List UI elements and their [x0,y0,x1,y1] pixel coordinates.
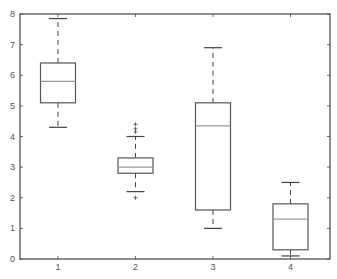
box-2 [118,122,153,200]
y-tick-label: 2 [10,193,15,203]
y-tick-label: 3 [10,162,15,172]
y-tick-label: 7 [10,40,15,50]
x-axis-ticks: 1234 [55,14,293,272]
y-tick-label: 0 [10,254,15,264]
x-tick-label: 4 [288,262,293,272]
box-1 [41,19,76,128]
box-4 [273,182,308,256]
y-tick-label: 8 [10,9,15,19]
y-tick-label: 4 [10,132,15,142]
box-body [118,158,153,173]
outlier-marker [134,127,138,131]
y-tick-label: 5 [10,101,15,111]
box-body [273,204,308,250]
y-tick-label: 1 [10,223,15,233]
boxes [41,19,309,256]
box-3 [196,48,231,229]
y-tick-label: 6 [10,70,15,80]
x-tick-label: 3 [210,262,215,272]
box-body [41,63,76,103]
box-plot-chart: 012345678 1234 [0,0,337,279]
box-body [196,103,231,210]
outlier-marker [134,122,138,126]
outlier-marker [134,196,138,200]
x-tick-label: 1 [55,262,60,272]
x-tick-label: 2 [133,262,138,272]
